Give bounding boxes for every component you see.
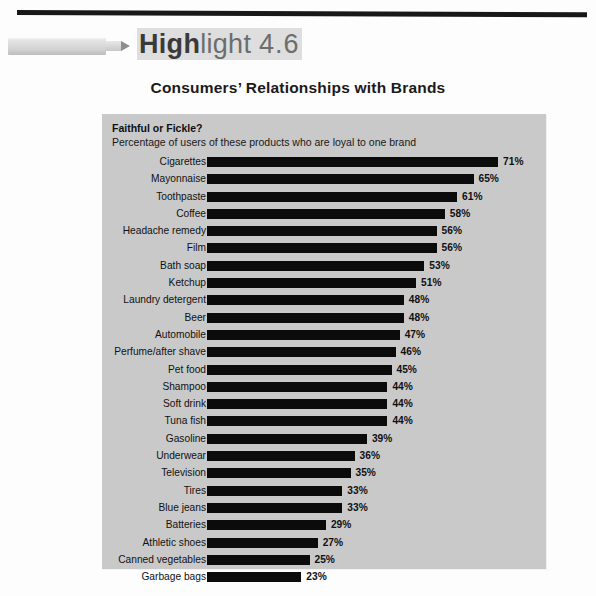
bar-row-label: Tires <box>6 485 206 497</box>
bar-row-bar <box>207 157 498 167</box>
bar-row: Television35% <box>102 466 546 483</box>
bar-row-bar <box>207 486 342 496</box>
bar-row-value: 61% <box>462 191 482 203</box>
bar-row: Shampoo44% <box>102 380 546 397</box>
bar-row-bar <box>207 468 351 478</box>
highlight-heading-number: 4.6 <box>259 29 300 59</box>
bar-row: Mayonnaise65% <box>102 172 546 189</box>
bar-row-bar <box>207 226 437 236</box>
bar-row-value: 58% <box>450 208 470 220</box>
bar-row-bar <box>207 313 404 323</box>
bar-row-label: Garbage bags <box>6 571 206 583</box>
bar-row-label: Athletic shoes <box>6 537 206 549</box>
bar-row-label: Perfume/after shave <box>6 346 206 358</box>
bar-row-label: Mayonnaise <box>6 173 206 185</box>
bar-row-label: Coffee <box>6 208 206 220</box>
bar-row-label: Pet food <box>6 364 206 376</box>
bar-row: Automobile47% <box>102 328 546 345</box>
bar-row: Tires33% <box>102 484 546 501</box>
bar-row-bar <box>207 520 326 530</box>
bar-row: Garbage bags23% <box>102 570 546 587</box>
bar-row-value: 44% <box>392 398 412 410</box>
bar-row-label: Cigarettes <box>6 156 206 168</box>
bar-row-value: 45% <box>397 364 417 376</box>
bar-row-value: 33% <box>347 485 367 497</box>
bar-row: Pet food45% <box>102 363 546 380</box>
bar-row-label: Laundry detergent <box>6 294 206 306</box>
bar-row-label: Soft drink <box>6 398 206 410</box>
chart-panel: Faithful or Fickle? Percentage of users … <box>102 114 546 569</box>
bar-row-bar <box>207 209 445 219</box>
bar-row-bar <box>207 330 400 340</box>
bar-row-bar <box>207 192 457 202</box>
bar-row-value: 47% <box>405 329 425 341</box>
bar-row: Bath soap53% <box>102 259 546 276</box>
bar-row-value: 71% <box>503 156 523 168</box>
bar-row-value: 51% <box>421 277 441 289</box>
bar-row-label: Bath soap <box>6 260 206 272</box>
bar-row: Toothpaste61% <box>102 190 546 207</box>
bar-row-label: Headache remedy <box>6 225 206 237</box>
bar-row-value: 65% <box>479 173 499 185</box>
bar-row-bar <box>207 261 424 271</box>
bar-row-value: 27% <box>323 537 343 549</box>
bar-row-bar <box>207 382 387 392</box>
bar-row: Film56% <box>102 241 546 258</box>
bar-row-value: 33% <box>347 502 367 514</box>
bar-row-bar <box>207 399 387 409</box>
chart-title: Faithful or Fickle? <box>112 122 202 134</box>
marker-body <box>8 38 106 55</box>
bar-row: Underwear36% <box>102 449 546 466</box>
bar-row-label: Underwear <box>6 450 206 462</box>
bar-row-value: 53% <box>429 260 449 272</box>
highlighter-marker-icon <box>8 38 132 57</box>
bar-row: Ketchup51% <box>102 276 546 293</box>
bar-row-bar <box>207 174 474 184</box>
marker-tip <box>121 41 130 51</box>
bar-row: Headache remedy56% <box>102 224 546 241</box>
bar-row-label: Beer <box>6 312 206 324</box>
bar-row-value: 56% <box>442 242 462 254</box>
bar-row-label: Tuna fish <box>6 415 206 427</box>
bar-row-value: 25% <box>315 554 335 566</box>
bar-row-bar <box>207 572 301 582</box>
bar-row: Gasoline39% <box>102 432 546 449</box>
bar-row-label: Film <box>6 242 206 254</box>
bar-row-label: Batteries <box>6 519 206 531</box>
bar-row-bar <box>207 243 437 253</box>
bar-row-label: Automobile <box>6 329 206 341</box>
bar-row: Soft drink44% <box>102 397 546 414</box>
bar-row-value: 29% <box>331 519 351 531</box>
bar-row-value: 35% <box>356 467 376 479</box>
bar-row-value: 48% <box>409 294 429 306</box>
bar-row-value: 46% <box>401 346 421 358</box>
bar-row-bar <box>207 365 392 375</box>
bar-row-bar <box>207 555 310 565</box>
bar-row: Perfume/after shave46% <box>102 345 546 362</box>
marker-neck <box>106 41 122 51</box>
bar-row-value: 56% <box>442 225 462 237</box>
bar-row: Coffee58% <box>102 207 546 224</box>
bar-row-label: Television <box>6 467 206 479</box>
bar-rows: Cigarettes71%Mayonnaise65%Toothpaste61%C… <box>102 155 546 587</box>
bar-row-bar <box>207 503 342 513</box>
highlight-heading-light: light <box>200 29 251 59</box>
page-title: Consumers’ Relationships with Brands <box>0 79 596 97</box>
bar-row-bar <box>207 538 318 548</box>
bar-row: Athletic shoes27% <box>102 536 546 553</box>
bar-row: Beer48% <box>102 311 546 328</box>
bar-row-value: 23% <box>306 571 326 583</box>
bar-row-label: Ketchup <box>6 277 206 289</box>
bar-row: Batteries29% <box>102 518 546 535</box>
bar-row: Cigarettes71% <box>102 155 546 172</box>
bar-row-value: 36% <box>360 450 380 462</box>
bar-row-value: 39% <box>372 433 392 445</box>
highlight-heading: Highlight 4.6 <box>137 29 302 60</box>
bar-row-label: Shampoo <box>6 381 206 393</box>
bar-row: Blue jeans33% <box>102 501 546 518</box>
bar-row-label: Gasoline <box>6 433 206 445</box>
top-divider-rule <box>17 10 587 17</box>
page-background: Highlight 4.6 Consumers’ Relationships w… <box>0 0 596 596</box>
highlight-heading-bold: High <box>139 29 200 59</box>
chart-subtitle: Percentage of users of these products wh… <box>112 136 416 148</box>
